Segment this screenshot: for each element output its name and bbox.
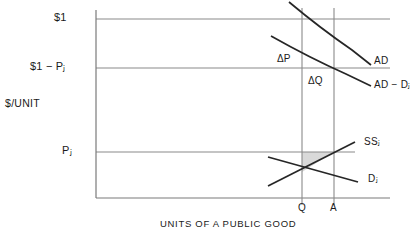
curve-label-ssj: SSⱼ [364,137,380,147]
figure-canvas [0,0,416,235]
y-label-one: $1 [54,12,67,23]
curve-ad [289,2,371,65]
y-label-pj: Pⱼ [62,145,72,156]
x-tick-label-q: Q [298,203,306,213]
curve-label-dj: Dⱼ [368,174,378,184]
x-axis-caption: UNITS OF A PUBLIC GOOD [160,219,296,229]
curve-label-ad-minus-dj: AD − Dⱼ [374,80,411,90]
curve-label-ad: AD [374,56,389,66]
annotation-delta-p: ΔP [277,54,290,64]
y-axis-caption: $/UNIT [5,98,40,109]
x-tick-label-a: A [330,203,337,213]
public-good-demand-supply-figure: $1 $1 − Pⱼ Pⱼ $/UNIT AD AD − Dⱼ SSⱼ Dⱼ Δ… [0,0,416,235]
curve-ssj [268,142,355,186]
annotation-delta-q: ΔQ [308,76,322,86]
y-label-one-minus-pj: $1 − Pⱼ [30,61,66,72]
